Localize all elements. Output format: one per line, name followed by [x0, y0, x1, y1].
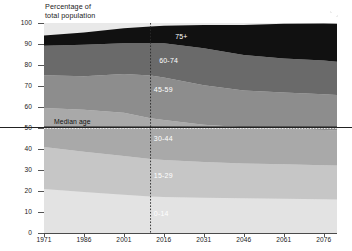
- stacked-area-svg: [44, 23, 337, 233]
- x-axis-line: [44, 233, 337, 234]
- y-tick-mark: [38, 23, 44, 24]
- y-tick-label: 0: [6, 229, 32, 236]
- x-tick-label: 2031: [184, 236, 224, 243]
- x-tick-label: 1971: [24, 236, 64, 243]
- median-age-line: [0, 127, 352, 128]
- y-tick-label: 40: [6, 145, 32, 152]
- y-tick-label: 20: [6, 187, 32, 194]
- y-tick-mark: [38, 212, 44, 213]
- watermark-artifact: [322, 6, 344, 22]
- y-tick-mark: [38, 149, 44, 150]
- band-label-30-44: 30-44: [154, 135, 173, 142]
- y-tick-mark: [38, 65, 44, 66]
- y-tick-label: 30: [6, 166, 32, 173]
- population-age-structure-chart: Percentage of total population 010203040…: [0, 0, 352, 251]
- y-axis-title: Percentage of total population: [45, 2, 95, 20]
- y-tick-mark: [38, 107, 44, 108]
- y-tick-mark: [38, 170, 44, 171]
- y-tick-label: 100: [6, 19, 32, 26]
- x-tick-label: 2016: [144, 236, 184, 243]
- y-tick-mark: [38, 44, 44, 45]
- y-tick-label: 80: [6, 61, 32, 68]
- y-tick-mark: [38, 86, 44, 87]
- y-tick-label: 70: [6, 82, 32, 89]
- median-age-label: Median age: [54, 118, 91, 125]
- band-label-45-59: 45-59: [154, 86, 173, 93]
- x-tick-label: 1986: [64, 236, 104, 243]
- y-tick-mark: [38, 128, 44, 129]
- band-label-15-29: 15-29: [154, 172, 173, 179]
- x-tick-label: 2001: [104, 236, 144, 243]
- y-tick-label: 10: [6, 208, 32, 215]
- band-label-0-14: 0-14: [154, 210, 169, 217]
- x-tick-label: 2046: [224, 236, 264, 243]
- band-label-75+: 75+: [175, 33, 187, 40]
- x-tick-label: 2076: [304, 236, 344, 243]
- x-tick-label: 2061: [264, 236, 304, 243]
- y-tick-mark: [38, 191, 44, 192]
- y-tick-label: 60: [6, 103, 32, 110]
- plot-area: [44, 23, 337, 233]
- band-label-60-74: 60-74: [159, 57, 178, 64]
- y-tick-label: 90: [6, 40, 32, 47]
